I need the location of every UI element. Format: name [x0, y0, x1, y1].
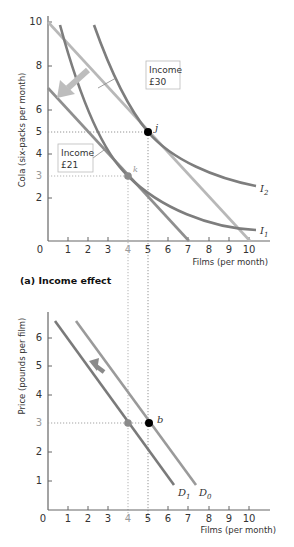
top-y-tick-8: 8	[36, 60, 42, 71]
i1-label: I1	[259, 225, 268, 239]
point-j	[144, 128, 152, 136]
d0-label: D0	[198, 487, 212, 501]
top-x-tick-1: 1	[65, 244, 71, 255]
top-y-tick-6: 6	[36, 104, 42, 115]
demand-curve-d1	[55, 321, 174, 485]
bottom-x-tick-0: 0	[40, 513, 46, 524]
top-x-tick-10: 10	[243, 244, 256, 255]
bottom-y-tick-5: 5	[36, 360, 42, 371]
top-x-tick-3: 3	[105, 244, 111, 255]
bottom-y-tick-2: 2	[36, 446, 42, 457]
top-x-tick-0: 0	[37, 244, 43, 255]
bottom-y-tick-1: 1	[36, 475, 42, 486]
budget-shift-arrow-icon	[57, 70, 88, 98]
income-30-line1: Income	[149, 65, 183, 75]
top-x-tick-8: 8	[206, 244, 212, 255]
top-x-tick-7: 7	[185, 244, 191, 255]
bottom-y-axis-title: Price (pounds per film)	[17, 318, 27, 415]
point-b	[145, 419, 153, 427]
top-x-tick-2: 2	[85, 244, 91, 255]
bottom-y-tick-4: 4	[36, 389, 42, 400]
bottom-y-tick-3: 3	[36, 417, 42, 428]
bottom-x-tick-2: 2	[85, 513, 91, 524]
demand-curve-d0	[76, 321, 196, 485]
top-y-axis-title: Cola (six-packs per month)	[17, 73, 27, 188]
leader-line-21	[93, 150, 104, 158]
point-demand-d1	[124, 419, 132, 427]
i2-label: I2	[259, 183, 269, 197]
bottom-x-tick-1: 1	[65, 513, 71, 524]
top-x-axis-title: Films (per month)	[193, 257, 268, 267]
top-y-tick-3: 3	[36, 170, 42, 181]
bottom-x-axis-title: Films (per month)	[201, 525, 276, 535]
top-x-tick-9: 9	[226, 244, 232, 255]
point-b-label: b	[157, 414, 163, 425]
bottom-x-tick-7: 7	[185, 513, 191, 524]
bottom-chart: Price (pounds per film) 6 5 4 3 2 1 0 1	[17, 312, 276, 535]
bottom-x-tick-8: 8	[206, 513, 212, 524]
top-y-tick-4: 4	[36, 148, 42, 159]
income-21-line2: £21	[61, 160, 78, 170]
bottom-x-tick-10: 10	[243, 513, 256, 524]
income-21-line1: Income	[61, 148, 95, 158]
top-y-tick-2: 2	[36, 192, 42, 203]
top-x-tick-6: 6	[165, 244, 171, 255]
bottom-x-tick-9: 9	[226, 513, 232, 524]
point-k-label: k	[133, 165, 138, 174]
top-y-tick-10: 10	[29, 16, 42, 27]
bottom-x-tick-4: 4	[125, 513, 131, 524]
bottom-x-tick-3: 3	[105, 513, 111, 524]
point-k	[124, 172, 132, 180]
income-30-label: Income £30	[146, 61, 183, 89]
income-21-label: Income £21	[58, 144, 95, 172]
bottom-y-tick-6: 6	[36, 332, 42, 343]
bottom-x-tick-6: 6	[165, 513, 171, 524]
income-30-line2: £30	[149, 77, 166, 87]
point-j-label: j	[153, 122, 158, 133]
income-effect-figure: Cola (six-packs per month) 10 8 6 5 4 3 …	[0, 0, 294, 547]
bottom-x-tick-5: 5	[145, 513, 151, 524]
d1-label: D1	[177, 487, 191, 501]
panel-caption: (a) Income effect	[20, 275, 112, 286]
indifference-curve-i2	[94, 25, 256, 186]
top-y-tick-5: 5	[36, 126, 42, 137]
